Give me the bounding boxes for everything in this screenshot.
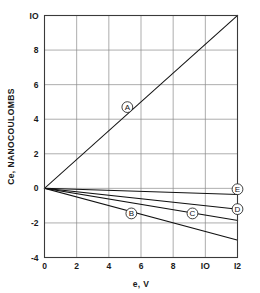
- callout-label: B: [129, 209, 134, 218]
- y-tick-label: 6: [34, 80, 39, 90]
- y-tick-label: 2: [34, 149, 39, 159]
- callout-label: E: [235, 185, 240, 194]
- series-callout-d: D: [232, 204, 243, 215]
- series-callout-b: B: [126, 208, 137, 219]
- x-axis-title: e, V: [133, 279, 150, 289]
- callout-label: D: [235, 205, 241, 214]
- y-axis-tick-labels: -4-202468IO: [30, 11, 39, 263]
- x-tick-label: 8: [171, 261, 176, 271]
- series-callout-a: A: [122, 102, 133, 113]
- chart-canvas: 02468IOI2 -4-202468IO ABCDE e, V Ce, NAN…: [0, 0, 260, 293]
- x-axis-tick-labels: 02468IOI2: [42, 261, 241, 271]
- x-tick-label: 4: [106, 261, 111, 271]
- x-tick-label: IO: [201, 261, 210, 271]
- y-tick-label: IO: [30, 11, 39, 21]
- y-tick-label: -4: [31, 253, 39, 263]
- x-tick-label: 6: [139, 261, 144, 271]
- y-axis-title: Ce, NANOCOULOMBS: [6, 88, 16, 185]
- y-tick-label: 8: [34, 45, 39, 55]
- callout-label: A: [125, 103, 131, 112]
- y-tick-label: 4: [34, 114, 39, 124]
- x-tick-label: I2: [234, 261, 241, 271]
- x-tick-label: 2: [74, 261, 79, 271]
- chart-figure: 02468IOI2 -4-202468IO ABCDE e, V Ce, NAN…: [0, 0, 260, 293]
- x-tick-label: 0: [42, 261, 47, 271]
- series-callout-c: C: [187, 208, 198, 219]
- y-tick-label: -2: [31, 218, 39, 228]
- series-callout-e: E: [232, 184, 243, 195]
- y-tick-label: 0: [34, 183, 39, 193]
- grid-layer: [45, 16, 238, 258]
- callout-label: C: [190, 209, 196, 218]
